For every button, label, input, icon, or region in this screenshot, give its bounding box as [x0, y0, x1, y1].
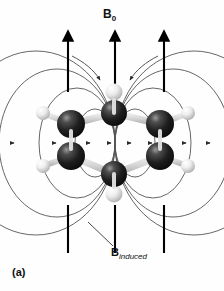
field-loop-left-4	[0, 51, 115, 235]
hydrogen-upper-left	[36, 106, 50, 120]
hydrogen-top	[106, 84, 123, 101]
panel-label: (a)	[12, 267, 25, 278]
induced-field-symbol: B	[111, 246, 119, 258]
field-loop-left-3	[0, 69, 115, 217]
top-left-curve-arrow	[72, 56, 100, 80]
applied-field-symbol: B	[103, 7, 112, 21]
induced-field-subscript: induced	[119, 252, 147, 261]
applied-field-subscript: 0	[112, 14, 116, 23]
hydrogen-lower-right	[181, 159, 195, 173]
binduced-leader-line	[88, 222, 113, 246]
hydrogen-upper-right	[181, 106, 195, 120]
figure-panel-a: B0 Binduced (a)	[0, 0, 224, 291]
hydrogen-lower-left	[36, 159, 50, 173]
applied-field-label: B0	[103, 8, 116, 23]
foreground-bond-stubs	[71, 100, 160, 187]
top-right-curve-arrow	[130, 56, 158, 80]
induced-field-loops-left	[0, 51, 115, 235]
field-loop-right-2	[115, 88, 191, 198]
induced-field-label: Binduced	[111, 247, 147, 261]
benzene-molecule	[36, 84, 195, 203]
